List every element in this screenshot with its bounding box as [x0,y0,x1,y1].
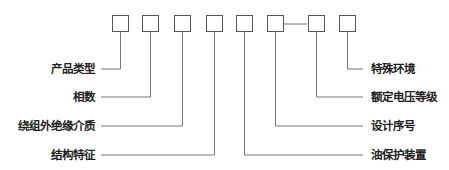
code-box-6 [267,15,284,32]
code-box-7 [308,15,325,32]
label-product-type: 产品类型 [51,62,95,76]
label-special-environment: 特殊环境 [371,62,415,76]
label-structure-feature: 结构特征 [51,148,95,162]
label-oil-protection-device: 油保护装置 [371,148,426,162]
code-box-1 [112,15,129,32]
label-phase-count: 相数 [73,90,95,104]
code-box-8 [339,15,356,32]
code-box-5 [236,15,253,32]
label-winding-insulation-medium: 绕组外绝缘介质 [18,119,95,133]
code-box-4 [206,15,223,32]
label-design-serial: 设计序号 [371,119,415,133]
code-box-3 [174,15,191,32]
code-box-2 [142,15,159,32]
label-rated-voltage-class: 额定电压等级 [371,90,437,104]
connector-lines [0,0,449,170]
